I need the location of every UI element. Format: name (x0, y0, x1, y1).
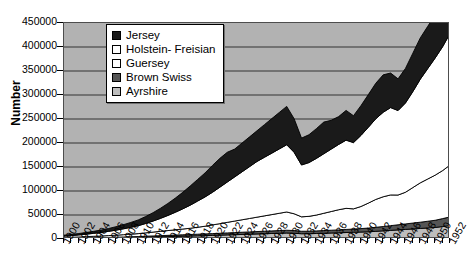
y-axis-tick-label: 250000 (1, 113, 57, 122)
legend-item: Brown Swiss (112, 71, 215, 85)
legend-swatch (112, 59, 121, 68)
y-axis-tick-label: 100000 (1, 185, 57, 194)
legend-label: Ayrshire (126, 86, 168, 97)
legend-swatch (112, 87, 121, 96)
legend-label: Brown Swiss (126, 72, 192, 83)
y-axis-tick-label: 400000 (1, 41, 57, 50)
legend-label: Guersey (126, 58, 169, 69)
y-axis-tick-labels: 4500004000003500003000002500002000001500… (0, 0, 57, 278)
legend-swatch (112, 73, 121, 82)
legend-swatch (112, 31, 121, 40)
legend-label: Holstein- Freisian (126, 44, 215, 55)
y-axis-tick-label: 150000 (1, 161, 57, 170)
y-axis-tick-label: 200000 (1, 137, 57, 146)
x-axis-tick-labels: 1900190219041906190819101912191419161918… (0, 240, 459, 278)
legend-item: Guersey (112, 56, 215, 70)
legend-item: Ayrshire (112, 85, 215, 99)
y-axis-tick-label: 350000 (1, 65, 57, 74)
legend-item: Jersey (112, 28, 215, 42)
legend: JerseyHolstein- FreisianGuerseyBrown Swi… (106, 24, 224, 103)
y-axis-tick-label: 300000 (1, 89, 57, 98)
legend-swatch (112, 45, 121, 54)
legend-label: Jersey (126, 30, 160, 41)
legend-item: Holstein- Freisian (112, 42, 215, 56)
y-axis-tick-label: 50000 (1, 209, 57, 218)
y-axis-tick-label: 450000 (1, 17, 57, 26)
